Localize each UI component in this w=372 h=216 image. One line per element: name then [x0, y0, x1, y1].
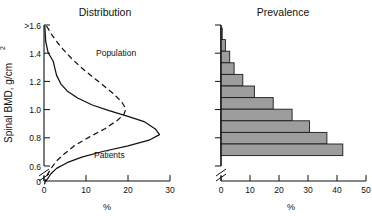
y-tick-label: 0.8	[29, 133, 41, 143]
x-tick-label: 20	[123, 185, 133, 195]
figure-canvas: Spinal BMD, g/cm 2 Distribution >1.6 1.	[0, 0, 372, 216]
distribution-y-tick-labels: >1.6 1.4 1.2 1.0 0.8 0.6 0	[24, 21, 41, 187]
distribution-x-tick-labels: 0 10 20 30	[42, 185, 175, 195]
bar-item	[221, 74, 243, 86]
population-label: Population	[96, 48, 136, 58]
x-tick-label: 0	[219, 185, 224, 195]
y-tick-label: >1.6	[24, 21, 41, 31]
bar-item	[221, 63, 234, 75]
panel-title-prevalence: Prevalence	[257, 6, 310, 18]
y-axis-label: Spinal BMD, g/cm	[3, 63, 14, 143]
prevalence-bars	[221, 28, 343, 156]
prevalence-x-tick-labels: 0 10 20 30 40 50	[219, 185, 371, 195]
panel-distribution: Distribution >1.6 1.4 1.2 1.0 0.8	[24, 6, 175, 212]
prevalence-y-ticks	[215, 25, 221, 166]
distribution-x-ticks	[44, 175, 170, 181]
distribution-x-axis-label: %	[103, 202, 111, 212]
bmd-distribution-prevalence-figure: Spinal BMD, g/cm 2 Distribution >1.6 1.	[0, 0, 372, 216]
x-tick-label: 10	[245, 185, 255, 195]
bar-item	[221, 51, 230, 63]
prevalence-x-ticks	[221, 175, 366, 181]
y-tick-label: 1.0	[29, 105, 41, 115]
y-tick-label: 1.4	[29, 49, 41, 59]
bar-item	[221, 40, 225, 52]
x-tick-label: 10	[81, 185, 91, 195]
bar-item	[221, 109, 292, 121]
x-tick-label: 50	[361, 185, 371, 195]
bar-item	[221, 98, 273, 110]
bar-item	[221, 144, 343, 156]
bar-item	[221, 132, 327, 144]
x-tick-label: 0	[42, 185, 47, 195]
patients-label: Patients	[94, 150, 125, 160]
y-tick-label: 0	[36, 177, 41, 187]
x-tick-label: 30	[165, 185, 175, 195]
prevalence-x-axis-label: %	[287, 202, 295, 212]
x-tick-label: 30	[303, 185, 313, 195]
x-tick-label: 20	[274, 185, 284, 195]
bar-item	[221, 121, 310, 133]
panel-title-distribution: Distribution	[79, 6, 132, 18]
y-axis-label-superscript: 2	[0, 46, 6, 50]
x-tick-label: 40	[332, 185, 342, 195]
y-axis-label-group: Spinal BMD, g/cm 2	[0, 46, 14, 143]
y-tick-label: 1.2	[29, 77, 41, 87]
panel-prevalence: Prevalence	[215, 6, 371, 212]
y-tick-label: 0.6	[29, 162, 41, 172]
bar-item	[221, 86, 254, 98]
